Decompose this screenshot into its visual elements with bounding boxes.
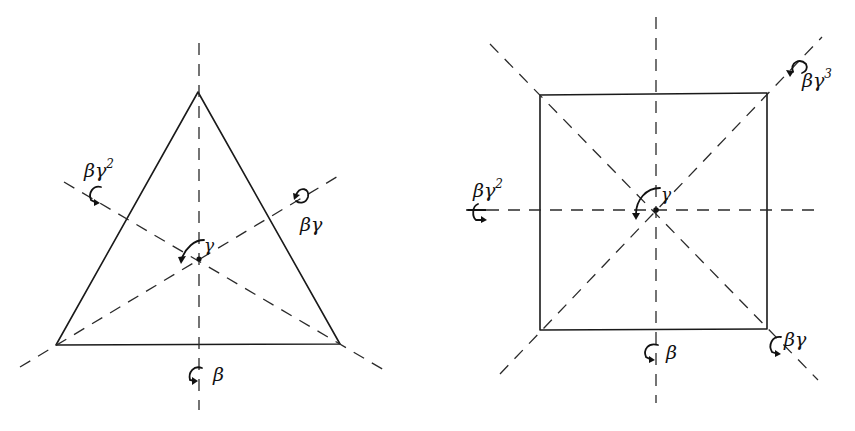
- triangle-outline: [56, 92, 340, 345]
- diagram-canvas: [0, 0, 855, 431]
- label-text: βγ: [300, 213, 322, 235]
- triangle-rotation-beta-icon: [190, 367, 202, 385]
- label-text: γ: [661, 184, 671, 204]
- triangle-beta-gamma-label: βγ: [300, 215, 322, 234]
- square-beta-gamma2-label: βγ2: [473, 180, 503, 200]
- square-anti-diagonal: [500, 37, 822, 374]
- label-exponent: 2: [106, 157, 114, 171]
- square-figure: [466, 17, 822, 403]
- square-gamma-label: γ: [661, 186, 671, 203]
- square-beta-gamma-label: βγ: [784, 330, 806, 349]
- triangle-center-dot: [196, 256, 201, 261]
- triangle-left-axis: [64, 182, 384, 370]
- triangle-beta-gamma2-label: βγ2: [84, 160, 114, 180]
- label-text: γ: [204, 235, 214, 255]
- label-exponent: 2: [495, 177, 503, 191]
- label-text: βγ: [473, 179, 495, 201]
- triangle-gamma-label: γ: [204, 237, 214, 254]
- square-beta-gamma3-label: βγ3: [802, 70, 832, 90]
- square-rotation-beta-gamma2-icon: [468, 204, 487, 223]
- label-text: βγ: [802, 69, 824, 91]
- triangle-rotation-beta-gamma-icon: [293, 189, 308, 202]
- triangle-rotation-beta-gamma2-icon: [90, 187, 101, 206]
- square-center-dot: [653, 207, 659, 213]
- square-beta-label: β: [666, 343, 677, 362]
- label-exponent: 3: [824, 67, 832, 81]
- label-text: β: [213, 363, 224, 385]
- triangle-right-axis: [20, 175, 340, 367]
- label-text: βγ: [784, 328, 806, 350]
- label-text: βγ: [84, 159, 106, 181]
- triangle-beta-label: β: [213, 365, 224, 384]
- triangle-figure: [20, 43, 384, 410]
- label-text: β: [666, 341, 677, 363]
- square-rotation-beta-gamma-icon: [770, 337, 781, 357]
